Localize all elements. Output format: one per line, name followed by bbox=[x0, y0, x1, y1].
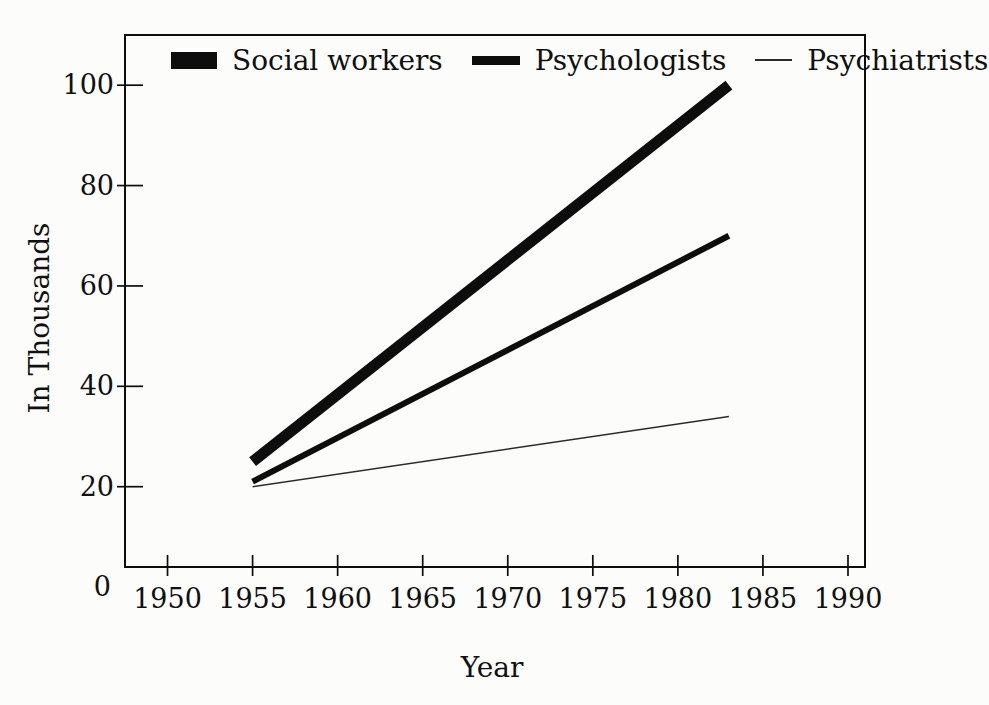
legend-label: Social workers bbox=[232, 44, 443, 77]
x-tick-label: 1955 bbox=[205, 582, 301, 616]
legend-item: Psychiatrists bbox=[755, 44, 988, 77]
x-tick-label: 1970 bbox=[460, 582, 556, 616]
x-tick-label: 1965 bbox=[375, 582, 471, 616]
legend-swatch-psychologists bbox=[472, 56, 520, 65]
y-tick-label: 100 bbox=[44, 68, 114, 102]
x-tick-label: 1990 bbox=[800, 582, 896, 616]
legend-item: Psychologists bbox=[472, 44, 727, 77]
legend-swatch-social-workers bbox=[171, 52, 217, 69]
x-tick-label: 1960 bbox=[290, 582, 386, 616]
plot-frame bbox=[125, 35, 865, 567]
x-tick-label: 1975 bbox=[545, 582, 641, 616]
series-line-psychiatrists bbox=[253, 416, 729, 486]
legend: Social workersPsychologistsPsychiatrists bbox=[171, 42, 989, 78]
legend-label: Psychiatrists bbox=[807, 44, 988, 77]
x-tick-label: 1950 bbox=[120, 582, 216, 616]
y-tick-label: 80 bbox=[44, 169, 114, 203]
x-axis-title: Year bbox=[461, 651, 524, 684]
x-tick-label: 1980 bbox=[630, 582, 726, 616]
y-tick-label: 20 bbox=[44, 470, 114, 504]
x-tick-label: 1985 bbox=[715, 582, 811, 616]
legend-swatch-psychiatrists bbox=[755, 59, 792, 61]
origin-tick-label: 0 bbox=[81, 570, 111, 604]
y-axis-title: In Thousands bbox=[23, 223, 56, 414]
legend-label: Psychologists bbox=[535, 44, 727, 77]
legend-item: Social workers bbox=[171, 44, 443, 77]
